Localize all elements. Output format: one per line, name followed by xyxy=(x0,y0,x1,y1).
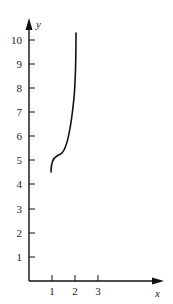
svg-text:10: 10 xyxy=(11,34,23,46)
svg-text:6: 6 xyxy=(17,130,23,142)
x-axis-label: x xyxy=(154,287,160,299)
svg-text:5: 5 xyxy=(17,154,23,166)
x-axis-arrow-icon xyxy=(152,278,164,285)
svg-text:4: 4 xyxy=(17,178,23,190)
svg-text:2: 2 xyxy=(17,227,23,239)
y-tick-labels: 1 2 3 4 5 6 7 8 9 10 xyxy=(11,34,23,263)
svg-text:9: 9 xyxy=(17,58,23,70)
y-ticks xyxy=(29,40,35,257)
svg-text:3: 3 xyxy=(17,203,23,215)
x-ticks xyxy=(52,275,98,281)
svg-text:7: 7 xyxy=(17,106,23,118)
y-axis-arrow-icon xyxy=(26,18,33,30)
svg-text:2: 2 xyxy=(72,285,78,297)
svg-text:8: 8 xyxy=(17,82,23,94)
y-axis-label: y xyxy=(35,18,41,30)
svg-text:3: 3 xyxy=(95,285,101,297)
data-curve xyxy=(51,33,76,172)
chart: y x 1 2 3 4 5 6 7 8 9 10 1 2 3 xyxy=(0,0,173,304)
svg-text:1: 1 xyxy=(17,251,23,263)
svg-text:1: 1 xyxy=(49,285,55,297)
x-tick-labels: 1 2 3 xyxy=(49,285,101,297)
